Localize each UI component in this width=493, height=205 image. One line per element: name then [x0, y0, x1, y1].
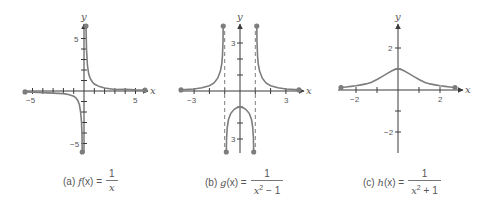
x-tick-label-pos: 2 [438, 95, 443, 104]
fraction: 1 x2 − 1 [251, 168, 284, 197]
y-axis-label: y [394, 11, 401, 22]
x-tick-label-neg: −5 [26, 96, 36, 105]
graph-b-reciprocal-quadratic-minus: −3 3 3 3 x y [180, 11, 312, 153]
caption-prefix: (c) [363, 177, 375, 188]
y-tick-label-pos: 2 [388, 44, 393, 53]
y-tick-label-pos: 5 [74, 35, 79, 44]
x-axis-label: x [150, 85, 156, 96]
caption-prefix: (b) [205, 177, 217, 188]
y-tick-label-pos: 3 [231, 39, 236, 48]
curve-g-right-branch [257, 26, 299, 90]
caption-arg: (x) = [226, 177, 246, 188]
denominator: x2 + 1 [408, 180, 441, 197]
x-tick-label-pos: 5 [133, 96, 138, 105]
x-axis-label: x [465, 84, 471, 95]
graph-a-reciprocal: −5 5 5 −5 x y [25, 11, 156, 153]
numerator: 1 [420, 168, 430, 180]
x-tick-label-neg: −2 [350, 95, 360, 104]
y-tick-label-neg: −2 [384, 128, 394, 137]
fraction: 1 x [106, 168, 118, 194]
y-tick-label-neg: −5 [70, 140, 80, 149]
denominator: x [106, 180, 118, 194]
curve-g-left-branch [181, 26, 223, 90]
y-tick-label-neg: 3 [231, 135, 236, 144]
caption-a: (a) f(x) = 1 x [63, 168, 118, 194]
x-axis-label: x [306, 85, 312, 96]
caption-prefix: (a) [63, 176, 75, 187]
caption-c: (c) h(x) = 1 x2 + 1 [363, 168, 441, 197]
numerator: 1 [262, 168, 272, 180]
y-axis-label: y [236, 11, 243, 22]
x-tick-label-pos: 3 [284, 96, 289, 105]
graph-c-reciprocal-quadratic-plus: −2 2 2 −2 x y [338, 11, 471, 153]
caption-arg: (x) = [384, 177, 404, 188]
numerator: 1 [107, 168, 117, 180]
x-tick-label-neg: −3 [187, 96, 197, 105]
curve-f-right-branch [86, 26, 145, 90]
caption-arg: (x) = [82, 176, 102, 187]
y-axis-label: y [80, 11, 87, 22]
caption-b: (b) g(x) = 1 x2 − 1 [205, 168, 283, 197]
denominator: x2 − 1 [251, 180, 284, 197]
fraction: 1 x2 + 1 [408, 168, 441, 197]
